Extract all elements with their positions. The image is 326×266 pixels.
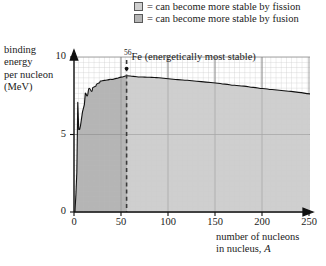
y-tick-label-0: 0	[44, 205, 66, 216]
x-axis-title-line-1: number of nucleons	[216, 231, 326, 243]
y-tick-label-5: 5	[44, 128, 66, 139]
chart-plot-area: 10 5 0 0 50 100 150 200 250	[0, 0, 326, 266]
x-tick-label-0: 0	[61, 216, 87, 227]
x-axis-symbol-A: A	[264, 243, 270, 254]
fe56-mass-number: 56	[124, 48, 132, 57]
x-axis-title: number of nucleons in nucleus, A	[216, 231, 326, 256]
fe56-annotation: 56Fe (energetically most stable)	[124, 48, 256, 62]
x-tick-label-50: 50	[108, 216, 134, 227]
x-tick-label-250: 250	[296, 216, 322, 227]
fe56-annotation-text: Fe (energetically most stable)	[132, 51, 256, 62]
x-tick-label-150: 150	[202, 216, 228, 227]
y-tick-label-10: 10	[44, 50, 66, 61]
x-tick-label-100: 100	[155, 216, 181, 227]
x-tick-label-200: 200	[249, 216, 275, 227]
x-axis-title-line-2: in nucleus, A	[216, 243, 326, 255]
x-axis-title-line-2-text: in nucleus,	[216, 243, 264, 254]
